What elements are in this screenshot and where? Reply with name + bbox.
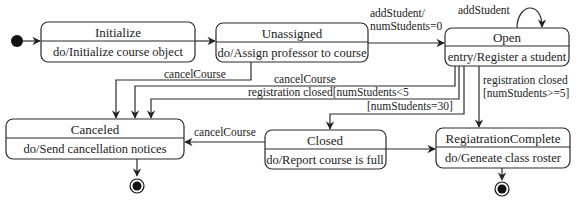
state-initialize[interactable]: Initialize do/Initialize course object (41, 22, 195, 62)
transition-label-cancel-closed: cancelCourse (194, 126, 256, 138)
state-closed-name: Closed (307, 133, 344, 148)
transition-label-registration-lt5: registration closed[numStudents<5 (248, 86, 409, 99)
state-canceled-action: do/Send cancellation notices (23, 142, 166, 156)
state-diagram: Initialize do/Initialize course object U… (0, 0, 583, 206)
transition-open-self-loop (517, 8, 542, 28)
state-canceled[interactable]: Canceled do/Send cancellation notices (6, 119, 184, 159)
transition-label-numstudents-30: [numStudents=30] (367, 100, 453, 112)
transition-label-registration-ge5-line2: [numStudents>=5] (483, 87, 569, 99)
state-initialize-name: Initialize (95, 25, 141, 40)
state-initialize-action: do/Initialize course object (53, 45, 183, 59)
transition-label-addstudent-line1: addStudent/ (370, 7, 426, 19)
state-closed-action: do/Report course is full (266, 153, 384, 167)
state-unassigned-action: do/Assign professor to course (218, 46, 367, 60)
final-state-icon (130, 179, 144, 193)
transition-label-cancel-unassigned: cancelCourse (164, 68, 226, 80)
state-open[interactable]: Open entry/Register a student (445, 28, 569, 66)
state-canceled-name: Canceled (71, 122, 120, 137)
transition-label-addstudent-line2: numStudents=0 (370, 20, 443, 32)
final-state-icon (495, 182, 509, 196)
state-open-action: entry/Register a student (448, 50, 567, 64)
state-open-name: Open (493, 30, 522, 45)
state-unassigned[interactable]: Unassigned do/Assign professor to course (216, 23, 368, 62)
state-registration-complete-name: RegiatrationComplete (446, 131, 561, 146)
state-unassigned-name: Unassigned (262, 26, 323, 41)
state-registration-complete-action: do/Geneate class roster (445, 151, 562, 165)
transition-label-cancel-open: cancelCourse (274, 73, 336, 85)
initial-state-icon (11, 35, 23, 47)
transition-label-registration-ge5-line1: registration closed (483, 74, 568, 87)
transition-label-self-addstudent: addStudent (458, 4, 511, 16)
state-closed[interactable]: Closed do/Report course is full (265, 130, 386, 169)
state-registration-complete[interactable]: RegiatrationComplete do/Geneate class ro… (436, 128, 570, 168)
